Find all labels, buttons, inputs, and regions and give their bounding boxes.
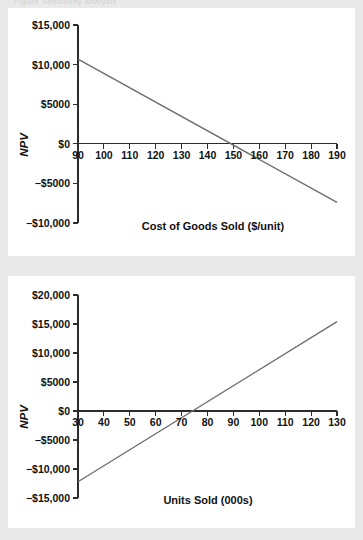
cogs-y-tick-label: −$5000: [35, 177, 70, 189]
units-x-tick-label: 100: [251, 416, 269, 428]
chart-units-sold: $20,000$15,000$10,000$5000$0−$5000−$10,0…: [8, 276, 355, 528]
units-x-tick-label: 50: [124, 416, 136, 428]
units-y-tick-label: −$15,000: [26, 492, 70, 504]
cogs-axis-title: Cost of Goods Sold ($/unit): [142, 220, 285, 232]
cogs-y-tick-label: −$10,000: [26, 217, 70, 229]
cogs-x-tick-label: 160: [251, 149, 269, 161]
units-y-tick-label: −$5000: [35, 434, 70, 446]
units-y-tick-labels: $20,000$15,000$10,000$5000$0−$5000−$10,0…: [26, 289, 70, 504]
units-x-tick-label: 80: [202, 416, 214, 428]
page-top-margin: Figure Sensitivity analysis: [0, 0, 363, 8]
cogs-x-tick-label: 170: [276, 149, 294, 161]
units-x-tick-label: 30: [72, 416, 84, 428]
cogs-y-axis-label: NPV: [18, 132, 30, 157]
units-y-tick-label: −$10,000: [26, 463, 70, 475]
cogs-x-tick-label: 190: [328, 149, 346, 161]
units-x-tick-label: 60: [150, 416, 162, 428]
cogs-y-tick-label: $0: [58, 138, 70, 150]
cogs-x-tick-label: 180: [302, 149, 320, 161]
cogs-x-tick-label: 110: [121, 149, 138, 161]
units-x-tick-label: 110: [277, 416, 294, 428]
chart-cost-of-goods-sold: $15,000$10,000$5000$0−$5000−$10,000 9010…: [8, 8, 355, 256]
units-y-tick-group: [73, 295, 78, 498]
units-y-axis-label: NPV: [18, 404, 30, 429]
units-y-tick-label: $5000: [41, 376, 70, 388]
cogs-plot-svg: $15,000$10,000$5000$0−$5000−$10,000 9010…: [8, 8, 355, 256]
units-y-tick-label: $10,000: [32, 347, 70, 359]
units-y-tick-label: $0: [58, 405, 70, 417]
units-x-tick-label: 70: [176, 416, 188, 428]
cut-off-caption: Figure Sensitivity analysis: [14, 0, 117, 6]
cogs-x-tick-label: 140: [199, 149, 217, 161]
units-y-tick-label: $20,000: [32, 289, 70, 301]
cogs-x-tick-label: 150: [225, 149, 243, 161]
cogs-series-line: [78, 59, 337, 202]
cogs-x-tick-label: 130: [173, 149, 191, 161]
figure-page: Figure Sensitivity analysis $15,000$10,0…: [0, 0, 363, 540]
cogs-x-tick-label: 90: [72, 149, 84, 161]
cogs-y-tick-group: [73, 25, 78, 223]
units-axis-title: Units Sold (000s): [163, 494, 253, 506]
units-x-tick-label: 90: [228, 416, 240, 428]
cogs-y-tick-label: $5000: [41, 98, 70, 110]
cogs-x-tick-label: 120: [147, 149, 165, 161]
units-series-line: [78, 322, 337, 482]
units-x-tick-label: 120: [302, 416, 320, 428]
units-x-tick-label: 130: [328, 416, 346, 428]
units-x-tick-label: 40: [98, 416, 110, 428]
cogs-x-tick-labels: 90100110120130140150160170180190: [72, 149, 346, 161]
cogs-y-tick-labels: $15,000$10,000$5000$0−$5000−$10,000: [26, 19, 70, 229]
cogs-y-tick-label: $10,000: [32, 59, 70, 71]
cogs-x-tick-label: 100: [95, 149, 113, 161]
units-plot-svg: $20,000$15,000$10,000$5000$0−$5000−$10,0…: [8, 276, 355, 528]
units-x-tick-labels: 30405060708090100110120130: [72, 416, 346, 428]
units-y-tick-label: $15,000: [32, 318, 70, 330]
cogs-y-tick-label: $15,000: [32, 19, 70, 31]
